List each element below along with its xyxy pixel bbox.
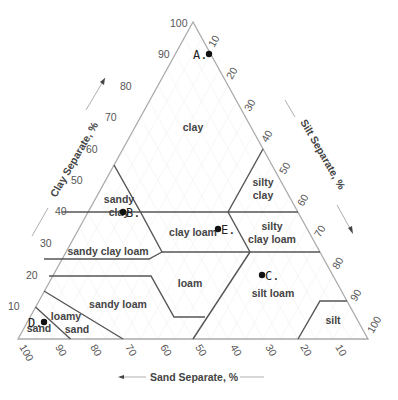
svg-text:10: 10 (8, 300, 20, 312)
svg-text:50: 50 (193, 342, 209, 358)
svg-text:30: 30 (263, 342, 279, 358)
svg-text:50: 50 (276, 160, 292, 176)
svg-text:100: 100 (17, 342, 36, 363)
svg-text:Silt Separate, %: Silt Separate, % (298, 117, 348, 192)
svg-text:60: 60 (294, 192, 310, 208)
soil-texture-triangle: 10 20 30 40 50 60 70 80 90 100 10 20 30 … (0, 0, 398, 400)
region-silty-clay-loam: silty (261, 220, 282, 232)
svg-text:70: 70 (311, 223, 327, 239)
svg-text:10: 10 (333, 342, 349, 358)
sand-axis-ticks: 100 90 80 70 60 50 40 30 20 10 (17, 342, 349, 363)
svg-text:B.: B. (126, 206, 140, 220)
region-silty-clay-loam: clay loam (248, 233, 296, 245)
region-loamy-sand: loamy (51, 310, 82, 322)
svg-text:90: 90 (158, 48, 170, 60)
svg-text:20: 20 (223, 65, 239, 81)
svg-text:E.: E. (221, 223, 235, 237)
svg-text:40: 40 (55, 205, 67, 217)
region-clay-loam: clay loam (169, 226, 217, 238)
region-sandy-loam: sandy loam (89, 298, 147, 310)
region-silty-clay: clay (253, 189, 274, 201)
region-sandy-clay-loam: sandy clay loam (67, 245, 148, 257)
svg-text:50: 50 (71, 174, 83, 186)
region-clay: clay (183, 121, 204, 133)
svg-text:C.: C. (265, 269, 279, 283)
svg-text:100: 100 (170, 17, 188, 29)
svg-text:10: 10 (205, 33, 221, 49)
svg-text:100: 100 (364, 314, 383, 335)
svg-text:40: 40 (258, 128, 274, 144)
svg-text:Sand Separate, %: Sand Separate, % (150, 371, 239, 383)
svg-text:80: 80 (120, 80, 132, 92)
svg-text:60: 60 (158, 342, 174, 358)
region-silt: silt (325, 314, 341, 326)
svg-text:70: 70 (123, 342, 139, 358)
svg-text:Clay Separate, %: Clay Separate, % (47, 119, 100, 199)
svg-text:80: 80 (329, 255, 345, 271)
svg-text:40: 40 (228, 342, 244, 358)
svg-text:20: 20 (298, 342, 314, 358)
svg-text:80: 80 (88, 342, 104, 358)
region-loam: loam (178, 277, 203, 289)
svg-text:30: 30 (40, 237, 52, 249)
region-loamy-sand: sand (65, 323, 90, 335)
svg-text:20: 20 (26, 269, 38, 281)
region-sandy-clay: sandy (104, 193, 135, 205)
region-silt-loam: silt loam (252, 287, 295, 299)
svg-text:A.: A. (193, 48, 207, 62)
svg-text:90: 90 (347, 287, 363, 303)
svg-text:D.: D. (28, 316, 42, 330)
svg-text:30: 30 (241, 97, 257, 113)
sand-axis-title: Sand Separate, % (118, 371, 264, 383)
svg-text:90: 90 (53, 342, 69, 358)
region-silty-clay: silty (252, 176, 273, 188)
svg-text:70: 70 (105, 111, 117, 123)
